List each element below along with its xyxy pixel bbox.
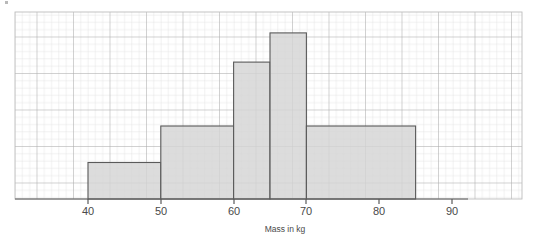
tick-label-60: 60 — [228, 205, 240, 217]
bar-60-65 — [234, 62, 270, 199]
bar-70-85 — [306, 126, 415, 199]
bar-65-70 — [270, 33, 306, 199]
x-axis-tick-labels: 40 50 60 70 80 90 — [82, 205, 458, 217]
histogram-chart: 40 50 60 70 80 90 Mass in kg — [0, 0, 536, 236]
tick-label-70: 70 — [300, 205, 312, 217]
tick-label-90: 90 — [446, 205, 458, 217]
tick-label-40: 40 — [82, 205, 94, 217]
tick-label-50: 50 — [155, 205, 167, 217]
tick-label-80: 80 — [373, 205, 385, 217]
x-axis-title: Mass in kg — [265, 224, 306, 234]
bar-50-60 — [161, 126, 234, 199]
x-axis-ticks — [88, 199, 452, 204]
histogram-svg: 40 50 60 70 80 90 Mass in kg — [0, 0, 536, 236]
bar-40-50 — [88, 163, 161, 200]
